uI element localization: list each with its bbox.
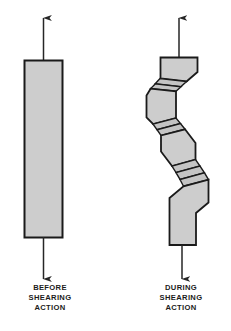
shear-diagram-figure: BEFORE SHEARING ACTION DURING SHEARING A… xyxy=(0,0,231,331)
before-shearing-caption: BEFORE SHEARING ACTION xyxy=(0,283,100,314)
right-segment-top xyxy=(161,58,198,82)
left-bar-body xyxy=(25,61,63,238)
shear-diagram-canvas xyxy=(0,0,231,331)
during-caption-line-2: SHEARING xyxy=(131,293,231,303)
during-caption-line-3: ACTION xyxy=(131,303,231,313)
left-specimen-group xyxy=(25,18,63,279)
right-segment-bottom xyxy=(170,180,209,245)
right-specimen-group xyxy=(147,18,209,279)
before-caption-line-1: BEFORE xyxy=(0,283,100,293)
during-caption-line-1: DURING xyxy=(131,283,231,293)
before-caption-line-3: ACTION xyxy=(0,303,100,313)
before-caption-line-2: SHEARING xyxy=(0,293,100,303)
during-shearing-caption: DURING SHEARING ACTION xyxy=(131,283,231,314)
